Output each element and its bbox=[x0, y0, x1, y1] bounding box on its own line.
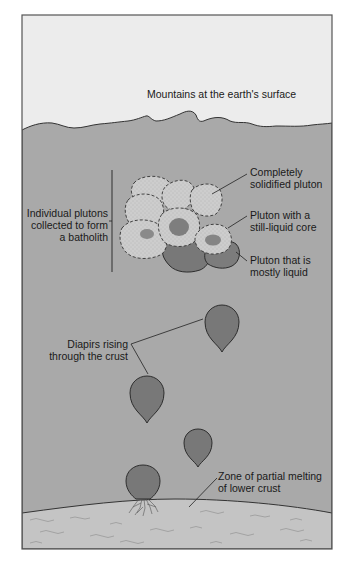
solidified-line-1: Completely bbox=[250, 166, 322, 178]
label-solidified: Completely solidified pluton bbox=[250, 166, 322, 190]
label-surface: Mountains at the earth's surface bbox=[147, 88, 296, 100]
batholith-line-3: a batholith bbox=[24, 231, 108, 243]
surface-label-text: Mountains at the earth's surface bbox=[147, 88, 296, 100]
liquid-core-line-2: still-liquid core bbox=[250, 221, 317, 233]
mostly-liquid-line-2: mostly liquid bbox=[250, 266, 311, 278]
batholith-line-1: Individual plutons bbox=[24, 207, 108, 219]
label-batholith: Individual plutons collected to form a b… bbox=[24, 207, 108, 243]
label-melting-zone: Zone of partial melting of lower crust bbox=[218, 470, 322, 494]
pluton-solidified bbox=[190, 184, 222, 216]
liquid-core-line-1: Pluton with a bbox=[250, 209, 317, 221]
label-liquid-core: Pluton with a still-liquid core bbox=[250, 209, 317, 233]
liquid-core bbox=[140, 229, 154, 239]
diapirs-line-2: through the crust bbox=[40, 350, 128, 362]
label-diapirs: Diapirs rising through the crust bbox=[40, 338, 128, 362]
melting-zone-line-1: Zone of partial melting bbox=[218, 470, 322, 482]
batholith-line-2: collected to form bbox=[24, 219, 108, 231]
diapirs-line-1: Diapirs rising bbox=[40, 338, 128, 350]
label-mostly-liquid: Pluton that is mostly liquid bbox=[250, 254, 311, 278]
mostly-liquid-line-1: Pluton that is bbox=[250, 254, 311, 266]
solidified-line-2: solidified pluton bbox=[250, 178, 322, 190]
liquid-core bbox=[169, 218, 189, 236]
diapir-source bbox=[126, 465, 160, 499]
liquid-core bbox=[205, 235, 221, 246]
melting-zone-line-2: of lower crust bbox=[218, 482, 322, 494]
